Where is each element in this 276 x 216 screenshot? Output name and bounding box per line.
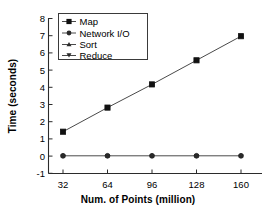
x-axis-ticks [63,170,241,174]
y-tick-label: 6 [40,47,45,58]
x-tick-label: 64 [102,179,113,190]
x-axis-tick-labels: 32 64 96 128 160 [58,179,249,190]
y-tick-label: 2 [40,116,45,127]
x-axis-title: Num. of Points (million) [81,194,196,205]
legend-label-map: Map [80,16,98,27]
square-marker-icon [66,19,71,24]
y-tick-label: 7 [40,30,45,41]
y-tick-label: 0 [40,151,45,162]
chart-figure: 8 7 6 5 4 3 2 1 0 -1 32 64 96 128 160 Nu… [0,0,276,216]
x-tick-label: 96 [147,179,158,190]
legend-label-sort: Sort [80,39,98,50]
y-tick-label: 1 [40,133,45,144]
y-axis-tick-labels: 8 7 6 5 4 3 2 1 0 -1 [37,13,45,179]
x-tick-label: 32 [58,179,69,190]
circle-marker-icon [67,31,72,36]
legend-label-network-io: Network I/O [80,28,130,39]
x-tick-label: 160 [233,179,249,190]
chart-legend: Map Network I/O Sort Reduce [59,14,148,62]
y-tick-label: 3 [40,99,45,110]
y-tick-label: 5 [40,65,45,76]
legend-label-reduce: Reduce [80,50,113,61]
y-tick-label: -1 [37,168,45,179]
x-tick-label: 128 [189,179,205,190]
y-axis-title: Time (seconds) [7,59,18,134]
y-axis-ticks [49,19,53,174]
series-flat-group [61,153,244,158]
y-tick-label: 4 [40,82,45,93]
chart-plot-area: 8 7 6 5 4 3 2 1 0 -1 32 64 96 128 160 Nu… [0,0,276,216]
y-tick-label: 8 [40,13,45,24]
